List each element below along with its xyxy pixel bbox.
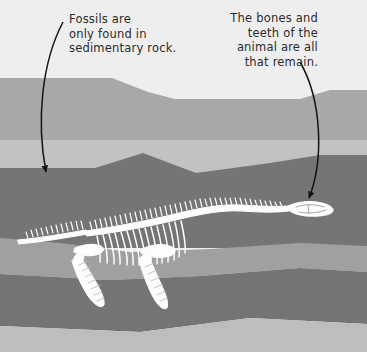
arrow-to-skull (300, 62, 319, 198)
annotation-left-text: Fossils are only found in sedimentary ro… (69, 12, 189, 56)
arrow-to-rock-layer (41, 22, 63, 172)
fossil-illustration: Fossils are only found in sedimentary ro… (0, 0, 367, 352)
annotation-right-text: The bones and teeth of the animal are al… (198, 11, 318, 69)
